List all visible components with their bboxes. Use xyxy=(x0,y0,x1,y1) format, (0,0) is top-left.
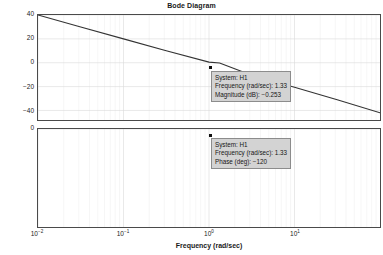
phase-data-marker[interactable] xyxy=(209,134,212,137)
x-tick-label: 10−2 xyxy=(31,230,43,237)
phase-tip-value: Phase (deg): −120 xyxy=(215,158,287,166)
x-tick-label: 10−1 xyxy=(117,230,129,237)
magnitude-data-marker[interactable] xyxy=(209,66,212,69)
phase-y-axis-labels: 0 xyxy=(0,128,34,228)
magnitude-y-tick-label: 0 xyxy=(0,59,34,66)
magnitude-tip-system: System: H1 xyxy=(215,74,287,82)
x-tick-label: 101 xyxy=(290,230,300,237)
phase-tip-system: System: H1 xyxy=(215,141,287,149)
bode-diagram-figure: Bode Diagram 40200−20−40 System: H1 Freq… xyxy=(0,0,383,255)
magnitude-y-tick-label: 20 xyxy=(0,35,34,42)
phase-curve xyxy=(38,129,380,227)
magnitude-y-tick-label: −40 xyxy=(0,108,34,115)
x-axis-label: Frequency (rad/sec) xyxy=(37,242,381,249)
phase-plot-area xyxy=(37,128,381,228)
magnitude-y-tick-label: −20 xyxy=(0,84,34,91)
x-tick-label: 100 xyxy=(204,230,214,237)
magnitude-tip-frequency: Frequency (rad/sec): 1.33 xyxy=(215,82,287,90)
page-title: Bode Diagram xyxy=(0,2,383,9)
phase-tip-frequency: Frequency (rad/sec): 1.33 xyxy=(215,149,287,157)
magnitude-y-tick-label: 40 xyxy=(0,11,34,18)
magnitude-tip-value: Magnitude (dB): −0.253 xyxy=(215,91,287,99)
phase-data-tip[interactable]: System: H1 Frequency (rad/sec): 1.33 Pha… xyxy=(211,138,291,169)
phase-y-tick-label: 0 xyxy=(0,125,34,132)
magnitude-data-tip[interactable]: System: H1 Frequency (rad/sec): 1.33 Mag… xyxy=(211,71,291,102)
magnitude-y-axis-labels: 40200−20−40 xyxy=(0,14,34,121)
x-axis-tick-labels: 10−210−1100101 xyxy=(0,230,383,242)
